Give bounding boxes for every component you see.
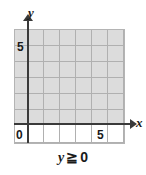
inequality-graph-figure: y x 5 5 0 y≧0 [0,0,146,175]
x-axis-label: x [136,116,143,129]
y-axis [27,20,29,143]
caption-value: 0 [80,149,88,165]
grid [14,29,124,143]
origin-label: 0 [16,129,23,141]
y-axis-label: y [28,6,34,19]
inequality-caption: y≧0 [0,150,146,165]
x-axis-tick-label-5: 5 [97,129,104,141]
y-axis-tick-label-5: 5 [17,41,24,53]
caption-relation-symbol: ≧ [64,150,80,165]
plot-area [14,29,124,143]
grid-border [14,29,125,144]
x-axis [14,123,132,125]
